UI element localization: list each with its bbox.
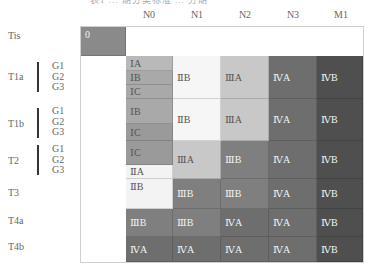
cell-t4a-n1: ⅢB (173, 209, 221, 237)
row-label-t1b: T1b (8, 118, 24, 129)
col-header-n1: N1 (173, 9, 221, 20)
grade-labels-t1a: G1 G2 G3 (52, 61, 64, 93)
row-label-t3: T3 (8, 187, 19, 198)
col-header-n2: N2 (221, 9, 269, 20)
cell-t4a-n3: ⅣA (269, 209, 317, 237)
row-label-t4b: T4b (8, 241, 24, 252)
cell-t3-n3: ⅣA (269, 179, 317, 209)
cell-t4b-m1: ⅣB (317, 237, 363, 262)
cell-t2-n0-g12: ⅠC (126, 141, 173, 165)
clipped-title: 表1 ... 期分类标准 ... 分期 (90, 0, 310, 3)
cell-t1b-n0-g12: ⅠB (126, 99, 173, 124)
cell-t4b-n1: ⅣA (173, 237, 221, 262)
grade-g1: G1 (52, 61, 64, 72)
staging-grid: 0 ⅠA ⅠB ⅠC ⅡB ⅢA ⅣA ⅣB ⅠB ⅠC ⅡB ⅢA ⅣA ⅣB… (80, 26, 364, 263)
cell-t1b-n3: ⅣA (269, 99, 317, 141)
cell-t1b-n0-g3: ⅠC (126, 124, 173, 141)
cell-t1a-m1: ⅣB (317, 56, 363, 99)
grade-g1: G1 (52, 144, 64, 155)
cell-t3-n0: ⅡB (126, 179, 173, 209)
cell-t1a-n2: ⅢA (221, 56, 269, 99)
col-header-n3: N3 (269, 9, 317, 20)
cell-t2-n2: ⅢB (221, 141, 269, 179)
cell-t2-n0-g3: ⅡA (126, 165, 173, 179)
row-label-tis: Tis (8, 30, 20, 41)
grade-labels-t2: G1 G2 G3 (52, 144, 64, 176)
cell-t3-n2: ⅢB (221, 179, 269, 209)
cell-t4b-n2: ⅣA (221, 237, 269, 262)
grade-g3: G3 (52, 127, 64, 138)
cell-t1a-n0-g3: ⅠC (126, 85, 173, 99)
cell-t4a-m1: ⅣB (317, 209, 363, 237)
cell-t2-m1: ⅣB (317, 141, 363, 179)
cell-t3-n1: ⅢB (173, 179, 221, 209)
cell-t1b-n2: ⅢA (221, 99, 269, 141)
cell-t2-n3: ⅣA (269, 141, 317, 179)
grade-bracket-t1b (37, 108, 39, 138)
row-label-t4a: T4a (8, 215, 24, 226)
grade-bracket-t1a (37, 62, 39, 92)
cell-t1a-n0-g1: ⅠA (126, 56, 173, 71)
cell-t1a-n0-g2: ⅠB (126, 71, 173, 85)
col-header-m1: M1 (317, 9, 365, 20)
cell-t1b-m1: ⅣB (317, 99, 363, 141)
row-label-t2: T2 (8, 155, 19, 166)
cell-t1b-n1: ⅡB (173, 99, 221, 141)
cell-t4b-n0: ⅣA (126, 237, 173, 262)
row-label-t1a: T1a (8, 71, 24, 82)
grade-g3: G3 (52, 82, 64, 93)
grade-bracket-t2 (37, 145, 39, 175)
cell-t2-n1: ⅢA (173, 141, 221, 179)
cell-t4b-n3: ⅣA (269, 237, 317, 262)
grade-g1: G1 (52, 106, 64, 117)
col-header-n0: N0 (125, 9, 173, 20)
cell-t4a-n0: ⅢB (126, 209, 173, 237)
grade-g3: G3 (52, 165, 64, 176)
cell-t1a-n3: ⅣA (269, 56, 317, 99)
cell-t3-m1: ⅣB (317, 179, 363, 209)
cell-tis-n0: 0 (81, 27, 126, 56)
grade-labels-t1b: G1 G2 G3 (52, 106, 64, 138)
cell-t4a-n2: ⅣA (221, 209, 269, 237)
cell-t1a-n1: ⅡB (173, 56, 221, 99)
